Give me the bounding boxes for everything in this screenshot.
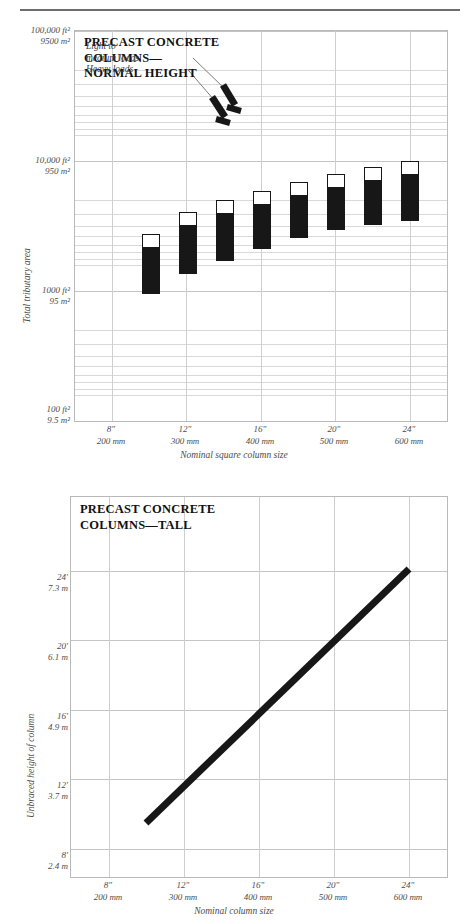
figure-precast-normal-height: 100,000 ft² 9500 m² 10,000 ft² 950 m² 10… — [0, 18, 468, 470]
figure-precast-tall: 24' 7.3 m 20' 6.1 m 16' 4.9 m 12' 3.7 m … — [0, 488, 468, 924]
y-axis-title-chart1: Total tributary area — [22, 248, 32, 323]
bar-16in — [253, 191, 271, 249]
y-tick-100000: 100,000 ft² 9500 m² — [31, 25, 70, 46]
bar-18in — [290, 182, 308, 238]
bar-segment-light — [253, 191, 271, 205]
y-axis-ticks-chart1: 100,000 ft² 9500 m² 10,000 ft² 950 m² 10… — [2, 30, 70, 420]
bar-20in — [327, 174, 345, 230]
bar-segment-light — [142, 234, 160, 248]
line-series-unbraced-height — [71, 497, 447, 877]
gridline-x-24 — [410, 31, 411, 421]
bar-segment-heavy — [327, 188, 345, 230]
bar-segment-heavy — [364, 181, 382, 225]
bar-segment-heavy — [216, 214, 234, 261]
plot-area-chart2 — [70, 496, 448, 878]
bar-14in — [216, 200, 234, 261]
header-divider — [20, 9, 460, 11]
bar-segment-light — [290, 182, 308, 196]
bar-segment-heavy — [253, 205, 271, 249]
bar-12in — [179, 212, 197, 274]
x-tick-12in-chart2: 12" 300 mm — [169, 880, 198, 903]
bar-10in — [142, 234, 160, 294]
bar-24in — [401, 161, 419, 221]
x-tick-24in-chart1: 24" 600 mm — [395, 424, 424, 447]
x-tick-8in-chart2: 8" 200 mm — [94, 880, 123, 903]
y-tick-20ft: 20' 6.1 m — [48, 641, 68, 662]
annotation-heavy-loads: Heavy loads — [86, 64, 133, 76]
bar-segment-light — [401, 161, 419, 175]
x-tick-20in-chart1: 20" 500 mm — [320, 424, 349, 447]
x-axis-title-chart1: Nominal square column size — [180, 450, 288, 460]
y-tick-16ft: 16' 4.9 m — [48, 711, 68, 732]
x-tick-12in-chart1: 12" 300 mm — [171, 424, 200, 447]
plot-area-chart1 — [74, 30, 448, 422]
x-tick-8in-chart1: 8" 200 mm — [97, 424, 126, 447]
y-tick-100: 100 ft² 9.5 m² — [47, 404, 70, 425]
y-tick-10000: 10,000 ft² 950 m² — [35, 155, 70, 176]
x-tick-16in-chart1: 16" 400 mm — [246, 424, 275, 447]
bar-segment-heavy — [401, 175, 419, 221]
bar-segment-heavy — [290, 196, 308, 238]
chart2-title: PRECAST CONCRETE COLUMNS—TALL — [80, 502, 215, 533]
x-axis-title-chart2: Nominal column size — [194, 906, 274, 916]
y-tick-12ft: 12' 3.7 m — [48, 780, 68, 801]
x-tick-20in-chart2: 20" 500 mm — [319, 880, 348, 903]
bar-segment-light — [216, 200, 234, 214]
bar-segment-light — [179, 212, 197, 226]
x-tick-16in-chart2: 16" 400 mm — [244, 880, 273, 903]
y-tick-24ft: 24' 7.3 m — [48, 572, 68, 593]
bar-segment-light — [327, 174, 345, 188]
bar-segment-light — [364, 167, 382, 181]
y-axis-title-chart2: Unbraced height of column — [26, 714, 36, 818]
gridline-x-8 — [112, 31, 113, 421]
bar-22in — [364, 167, 382, 225]
y-axis-ticks-chart2: 24' 7.3 m 20' 6.1 m 16' 4.9 m 12' 3.7 m … — [0, 496, 68, 876]
bar-segment-heavy — [142, 248, 160, 294]
y-tick-1000: 1000 ft² 95 m² — [42, 285, 70, 306]
x-tick-24in-chart2: 24" 600 mm — [394, 880, 423, 903]
bar-segment-heavy — [179, 226, 197, 274]
y-tick-8ft: 8' 2.4 m — [48, 850, 68, 871]
annotation-light-medium-loads: Light to medium loads — [86, 41, 139, 64]
